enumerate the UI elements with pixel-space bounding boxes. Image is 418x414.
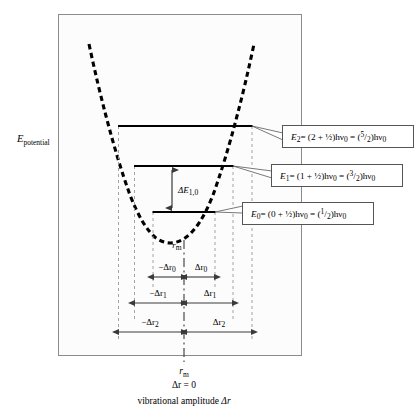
amplitude-label-right-dr1-main: Δr [204,288,213,298]
x-caption-rm: rm [179,366,189,379]
callout-E2-tail: )hν [371,132,383,142]
callout-E0-mid: = ( [308,209,321,219]
callout-E0-tail-sub: 0 [342,212,346,221]
amplitude-label-left-dr0-sub: 0 [172,265,176,274]
curve-minimum-label-sub: m [176,243,182,252]
x-caption-amplitude: vibrational amplitude Δr [137,396,230,406]
x-caption-amplitude-pre: vibrational amplitude [137,396,221,406]
amplitude-label-right-dr2-sub: 2 [222,320,226,329]
amplitude-label-right-dr0-sub: 0 [204,265,208,274]
callout-E1-tail: )hν [360,171,372,181]
delta-E-label-sub: 1,0 [189,188,199,197]
amplitude-label-right-dr2-main: Δr [213,317,222,327]
x-caption-delta-zero: Δr = 0 [172,380,196,390]
callout-E2-tail-sub: 0 [382,135,386,144]
x-caption-amplitude-var: Δr [220,396,231,406]
callout-E2-mid: = ( [348,132,361,142]
amplitude-label-right-dr0-main: Δr [195,262,204,272]
callout-E2-eq: = (2 + ½)hν [300,132,344,142]
callout-E1-tail-sub: 0 [371,174,375,183]
amplitude-label-left-dr2-main: −Δr [141,317,155,327]
callout-E0-tail: )hν [331,209,343,219]
y-axis-label-sub: potential [23,138,49,147]
callout-E0-eq: = (0 + ½)hν [260,209,304,219]
amplitude-label-left-dr0-main: −Δr [158,262,172,272]
amplitude-label-right-dr1-sub: 1 [213,291,217,300]
y-axis-label: Epotential [16,133,50,147]
vibrational-energy-diagram: Epotential E2= (2 + ½)hν0 = (5/2)hν0 E1=… [0,0,418,414]
x-caption-rm-sub: m [183,370,189,379]
amplitude-label-left-dr1-main: −Δr [149,288,163,298]
callout-E1-mid: = ( [337,171,350,181]
amplitude-label-left-dr1-sub: 1 [163,291,167,300]
amplitude-label-left-dr2-sub: 2 [155,320,159,329]
callout-E1-eq: = (1 + ½)hν [289,171,333,181]
delta-E-label-main: ΔE [177,185,189,195]
